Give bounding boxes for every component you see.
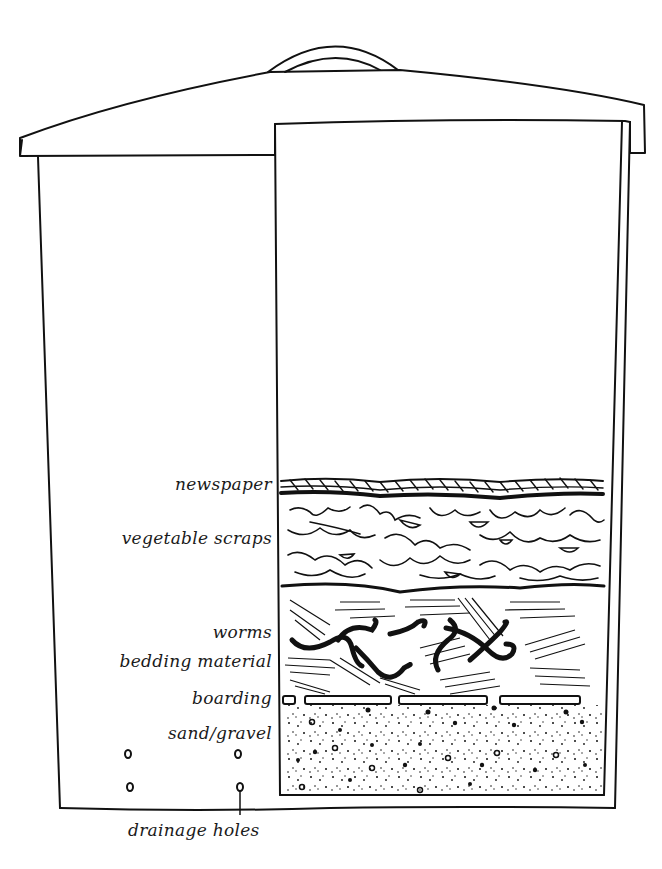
vegetable-scraps-layer — [282, 505, 604, 592]
bin-bottom — [60, 807, 615, 810]
drainage-hole — [127, 783, 133, 791]
cutaway-right — [604, 122, 622, 795]
label-sand-gravel: sand/gravel — [12, 723, 272, 743]
label-vegetable-scraps: vegetable scraps — [12, 528, 272, 548]
label-worms: worms — [12, 622, 272, 642]
drainage-hole — [125, 750, 131, 758]
bin-right-wall — [615, 122, 630, 808]
bedding-layer — [285, 598, 590, 694]
label-boarding: boarding — [12, 688, 272, 708]
newspaper-layer — [281, 478, 603, 498]
sand-gravel-layer — [285, 705, 603, 793]
label-newspaper: newspaper — [12, 474, 272, 494]
boarding-layer — [283, 696, 580, 704]
drainage-holes — [125, 750, 243, 791]
label-bedding-material: bedding material — [12, 651, 272, 671]
cutaway-left — [275, 124, 280, 795]
drainage-hole — [237, 783, 243, 791]
drainage-hole — [235, 750, 241, 758]
lid — [20, 70, 645, 156]
label-drainage-holes: drainage holes — [128, 820, 260, 840]
